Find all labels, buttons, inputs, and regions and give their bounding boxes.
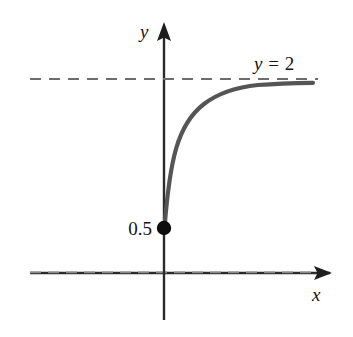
plot-canvas	[0, 0, 353, 337]
function-curve	[165, 83, 314, 228]
y-axis-label: y	[140, 22, 148, 41]
y-intercept-label: 0.5	[110, 219, 152, 238]
asymptote-label-relation: = 2	[263, 53, 295, 74]
asymptote-label: y = 2	[254, 54, 295, 73]
graph-figure: y x y = 2 0.5	[0, 0, 353, 337]
y-intercept-point	[157, 221, 171, 235]
asymptote-label-variable: y	[254, 53, 263, 74]
x-axis-label: x	[312, 285, 320, 304]
